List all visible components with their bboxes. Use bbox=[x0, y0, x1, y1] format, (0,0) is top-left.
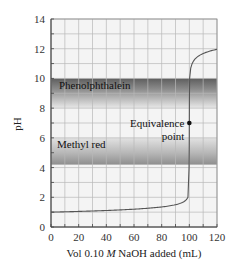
y-tick-label: 10 bbox=[34, 72, 46, 84]
x-tick-label: 60 bbox=[129, 231, 141, 243]
band-label-phenolphthalein: Phenolphthalein bbox=[59, 79, 131, 91]
x-tick-label: 120 bbox=[209, 231, 226, 243]
y-tick-label: 14 bbox=[34, 13, 46, 25]
y-tick-label: 2 bbox=[40, 191, 46, 203]
band-label-methyl-red: Methyl red bbox=[57, 138, 106, 150]
y-tick-label: 0 bbox=[40, 221, 46, 233]
y-axis-title: pH bbox=[11, 117, 23, 131]
y-tick-label: 12 bbox=[34, 43, 45, 55]
x-tick-label: 40 bbox=[101, 231, 113, 243]
x-tick-label: 100 bbox=[181, 231, 198, 243]
x-tick-label: 20 bbox=[73, 231, 85, 243]
titration-chart: 02468101214020406080100120 Phenolphthale… bbox=[0, 0, 235, 271]
equivalence-label-line2: point bbox=[162, 130, 185, 142]
x-tick-label: 80 bbox=[156, 231, 168, 243]
x-tick-label: 0 bbox=[48, 231, 54, 243]
x-axis-title: Vol 0.10 M NaOH added (mL) bbox=[67, 247, 202, 260]
y-tick-label: 8 bbox=[40, 102, 46, 114]
equivalence-point-marker bbox=[187, 121, 192, 126]
y-tick-label: 4 bbox=[40, 162, 46, 174]
equivalence-label-line1: Equivalence bbox=[130, 117, 184, 129]
y-tick-label: 6 bbox=[40, 132, 46, 144]
